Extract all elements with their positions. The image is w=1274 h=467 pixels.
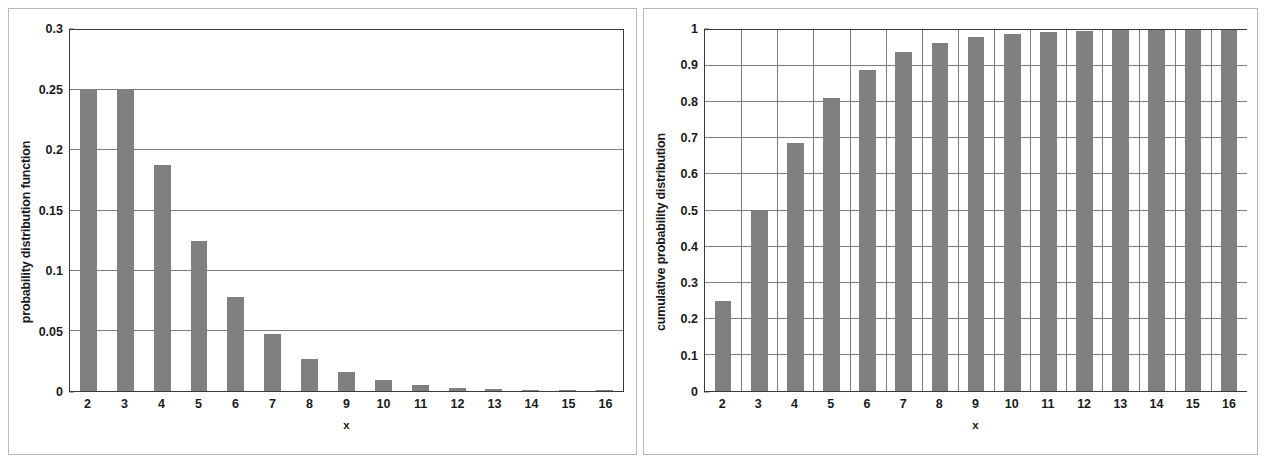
bar — [375, 380, 392, 391]
x-axis-tick-label: 3 — [106, 397, 143, 411]
x-axis-tick-label: 13 — [476, 397, 513, 411]
bar-slot — [994, 30, 1030, 391]
bar-slot — [741, 30, 777, 391]
bar — [1076, 31, 1093, 391]
x-axis-tick-label: 3 — [740, 397, 776, 411]
bar — [117, 90, 134, 391]
x-axis-tick-label: 15 — [550, 397, 587, 411]
bar — [227, 297, 244, 391]
bar-slot — [1030, 30, 1066, 391]
bar — [1221, 30, 1238, 391]
x-axis-tick-label: 2 — [704, 397, 740, 411]
x-axis-tick-label: 5 — [180, 397, 217, 411]
cdf-chart-frame: cumulative probability distribution 00.1… — [643, 8, 1258, 455]
bar-slot — [291, 30, 328, 391]
x-axis-tick-label: 15 — [1175, 397, 1211, 411]
y-axis-tick-label: 0.2 — [46, 143, 63, 157]
bar-slot — [328, 30, 365, 391]
x-axis-tick-label: 4 — [143, 397, 180, 411]
bar — [1185, 30, 1202, 391]
bar-slot — [705, 30, 741, 391]
x-axis-tick-label: 2 — [69, 397, 106, 411]
bar-slot — [475, 30, 512, 391]
x-axis-tick-label: 12 — [439, 397, 476, 411]
cdf-x-axis-title: x — [704, 419, 1247, 431]
cdf-y-axis-title: cumulative probability distribution — [648, 9, 674, 454]
bar-slot — [958, 30, 994, 391]
y-axis-tick-label: 0.4 — [681, 240, 698, 254]
bar — [449, 388, 466, 391]
bar — [1148, 30, 1165, 391]
x-axis-tick-label: 10 — [994, 397, 1030, 411]
bar — [596, 390, 613, 391]
pdf-plot-area — [69, 29, 624, 392]
bar-slot — [365, 30, 402, 391]
bar — [823, 98, 840, 391]
bar-slot — [70, 30, 107, 391]
bar — [191, 241, 208, 391]
bar — [80, 90, 97, 391]
y-axis-tick-label: 0.3 — [46, 22, 63, 36]
pdf-y-axis-title: probability distribution function — [13, 9, 39, 454]
bar-slot — [813, 30, 849, 391]
bar-slot — [586, 30, 623, 391]
x-axis-tick-label: 5 — [813, 397, 849, 411]
y-axis-tick-label: 0.1 — [681, 349, 698, 363]
y-axis-tick-label: 0.25 — [39, 83, 63, 97]
bar — [859, 70, 876, 391]
y-axis-tick-label: 0.9 — [681, 58, 698, 72]
y-axis-tick-label: 0 — [56, 385, 63, 399]
bar — [559, 390, 576, 391]
bar-slot — [549, 30, 586, 391]
bar — [412, 385, 429, 391]
x-axis-tick-label: 16 — [587, 397, 624, 411]
bar-slot — [512, 30, 549, 391]
x-axis-tick-label: 14 — [513, 397, 550, 411]
x-axis-tick-label: 14 — [1138, 397, 1174, 411]
bar-slot — [922, 30, 958, 391]
bar — [787, 143, 804, 391]
x-axis-tick-label: 7 — [885, 397, 921, 411]
bar — [932, 43, 949, 391]
x-axis-tick-label: 10 — [365, 397, 402, 411]
cdf-plot-area — [704, 29, 1247, 392]
x-axis-tick-label: 6 — [849, 397, 885, 411]
y-axis-tick-label: 0.15 — [39, 204, 63, 218]
y-axis-tick-label: 0.6 — [681, 167, 698, 181]
dual-bar-chart-figure: probability distribution function 00.050… — [0, 0, 1274, 467]
bar — [1112, 30, 1129, 391]
x-axis-tick-label: 8 — [291, 397, 328, 411]
bar-slot — [217, 30, 254, 391]
y-axis-tick-label: 0.7 — [681, 131, 698, 145]
pdf-chart-frame: probability distribution function 00.050… — [8, 8, 637, 455]
bar-slot — [439, 30, 476, 391]
pdf-bar-series — [70, 30, 623, 391]
bar — [968, 37, 985, 391]
bar-slot — [181, 30, 218, 391]
y-axis-tick-label: 0.2 — [681, 312, 698, 326]
bar-slot — [402, 30, 439, 391]
x-axis-tick-label: 8 — [921, 397, 957, 411]
y-axis-tick-label: 0 — [691, 385, 698, 399]
bar-slot — [1066, 30, 1102, 391]
bar — [751, 211, 768, 392]
bar — [301, 359, 318, 391]
bar — [1040, 32, 1057, 391]
y-axis-tick-label: 0.05 — [39, 325, 63, 339]
bar-slot — [1103, 30, 1139, 391]
y-axis-tick-label: 0.8 — [681, 95, 698, 109]
bar — [522, 390, 539, 391]
pdf-x-axis-title: x — [69, 419, 624, 431]
x-axis-tick-label: 13 — [1102, 397, 1138, 411]
bar-slot — [144, 30, 181, 391]
pdf-x-axis-tick-labels: 2345678910111213141516 — [69, 397, 624, 411]
x-axis-tick-label: 7 — [254, 397, 291, 411]
bar — [485, 389, 502, 391]
bar — [154, 165, 171, 391]
bar — [715, 301, 732, 391]
cdf-bar-series — [705, 30, 1247, 391]
bar — [338, 372, 355, 391]
bar-slot — [777, 30, 813, 391]
x-axis-tick-label: 9 — [957, 397, 993, 411]
x-axis-tick-label: 6 — [217, 397, 254, 411]
